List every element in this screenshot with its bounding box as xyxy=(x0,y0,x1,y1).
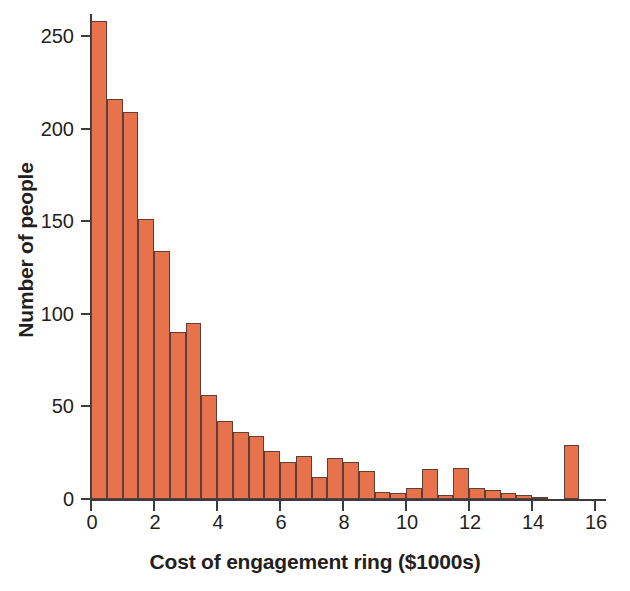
histogram-bar xyxy=(343,462,359,499)
histogram-bar xyxy=(327,458,343,499)
y-axis-tick xyxy=(81,128,90,130)
x-axis-tick-label: 0 xyxy=(72,512,112,532)
histogram-bar xyxy=(375,492,391,499)
y-axis-tick xyxy=(81,220,90,222)
histogram-bar xyxy=(217,421,233,499)
y-axis-tick-label: 150 xyxy=(12,211,74,231)
x-axis-tick-label: 12 xyxy=(450,512,490,532)
x-axis-tick-label: 14 xyxy=(513,512,553,532)
y-axis-tick xyxy=(81,498,90,500)
x-axis-tick xyxy=(153,501,155,511)
y-axis-tick-label: 200 xyxy=(12,119,74,139)
histogram-bar xyxy=(469,488,485,499)
histogram-bar xyxy=(280,462,296,499)
histogram-bar xyxy=(264,451,280,499)
x-axis-tick-label: 2 xyxy=(135,512,175,532)
x-axis-tick-label: 4 xyxy=(198,512,238,532)
histogram-bar xyxy=(422,469,438,499)
y-axis-tick-label: 100 xyxy=(12,304,74,324)
histogram-bar xyxy=(186,323,202,499)
histogram-bar xyxy=(532,497,548,499)
x-axis-tick xyxy=(279,501,281,511)
x-axis-tick xyxy=(468,501,470,511)
histogram-bar xyxy=(138,219,154,499)
x-axis-tick xyxy=(342,501,344,511)
histogram-bar xyxy=(233,432,249,499)
histogram-bar xyxy=(406,488,422,499)
y-axis-tick xyxy=(81,405,90,407)
x-axis-tick-label: 10 xyxy=(387,512,427,532)
x-axis-tick xyxy=(594,501,596,511)
plot-area: 050100150200250 0246810121416 xyxy=(0,0,630,591)
histogram-bar xyxy=(438,495,454,499)
x-axis-title: Cost of engagement ring ($1000s) xyxy=(0,550,630,574)
x-axis-tick-label: 16 xyxy=(576,512,616,532)
x-axis-tick xyxy=(405,501,407,511)
y-axis-tick-label: 250 xyxy=(12,26,74,46)
histogram-bar xyxy=(390,493,406,499)
y-axis-tick xyxy=(81,35,90,37)
x-axis-tick xyxy=(531,501,533,511)
histogram-bar xyxy=(201,395,217,499)
histogram-bar xyxy=(359,471,375,499)
histogram-bar xyxy=(564,445,580,499)
histogram-bar xyxy=(154,251,170,499)
histogram-bar xyxy=(501,493,517,499)
histogram-bar xyxy=(170,332,186,499)
x-axis-tick-label: 8 xyxy=(324,512,364,532)
x-axis-tick-label: 6 xyxy=(261,512,301,532)
y-axis-tick xyxy=(81,313,90,315)
histogram-figure: Number of people 050100150200250 0246810… xyxy=(0,0,630,591)
histogram-bar xyxy=(453,468,469,499)
y-axis-tick-label: 0 xyxy=(12,489,74,509)
histogram-bar xyxy=(296,456,312,499)
y-axis-tick-label: 50 xyxy=(12,396,74,416)
histogram-bar xyxy=(91,21,107,499)
x-axis-line xyxy=(90,499,606,501)
histogram-bar xyxy=(123,112,139,499)
histogram-bar xyxy=(312,477,328,499)
histogram-bar xyxy=(516,495,532,499)
histogram-bar xyxy=(249,436,265,499)
x-axis-tick xyxy=(216,501,218,511)
x-axis-tick xyxy=(90,501,92,511)
histogram-bar xyxy=(485,490,501,499)
histogram-bar xyxy=(107,99,123,499)
